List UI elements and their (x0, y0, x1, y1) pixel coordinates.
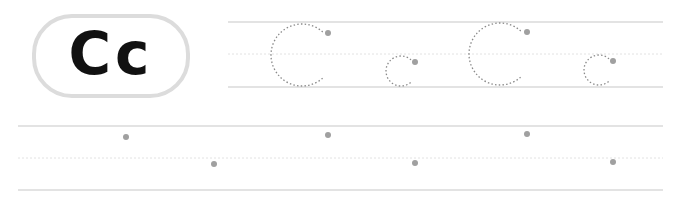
start-dot-icon (325, 132, 331, 138)
start-dot-icon (524, 131, 530, 137)
start-dot-icon (412, 59, 418, 65)
practice-row-2 (18, 126, 663, 190)
trace-letter-lowercase-1 (386, 56, 411, 86)
start-dot-icon (610, 58, 616, 64)
trace-letter-uppercase-0 (271, 24, 323, 86)
start-dot-icon (211, 161, 217, 167)
tracing-sheet (0, 0, 682, 203)
start-dot-icon (325, 30, 331, 36)
trace-letter-lowercase-3 (584, 55, 609, 85)
start-dot-icon (524, 29, 530, 35)
start-dot-icon (123, 134, 129, 140)
start-dot-icon (412, 160, 418, 166)
start-dot-icon (610, 159, 616, 165)
tracing-row-1 (228, 22, 663, 87)
